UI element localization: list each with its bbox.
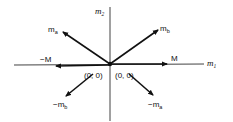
vector-neg-M [56,65,110,66]
label-neg-M: −M [40,55,52,64]
m2-axis-label: m2 [95,6,105,17]
label-ma: ma [48,25,59,35]
label-mb: mb [160,24,170,34]
origin-point [108,62,112,66]
origin-label-right: (0, 0) [115,71,134,80]
vector-diagram: m2 m1 ma mb M −M −mb −ma (0, 0) (0, 0) [0,0,233,122]
m1-axis-label: m1 [207,58,217,69]
origin-label-left: (0, 0) [84,71,103,80]
label-neg-ma: −ma [148,100,163,110]
vector-mb [110,30,158,64]
label-neg-mb: −mb [53,100,67,110]
label-M: M [171,54,178,63]
vector-ma [63,32,110,64]
